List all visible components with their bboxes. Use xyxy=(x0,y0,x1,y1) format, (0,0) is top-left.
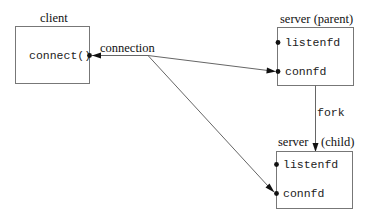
arrowhead-to-client-icon xyxy=(92,53,101,59)
fork-label: fork xyxy=(317,106,345,119)
fork-arrowhead-icon xyxy=(313,143,319,152)
child-connfd-label: connfd xyxy=(283,187,324,200)
connection-line-parent xyxy=(148,56,268,71)
parent-connfd-dot xyxy=(276,69,281,74)
client-connect-socket-dot xyxy=(87,53,92,58)
client-title: client xyxy=(40,11,68,25)
arrowhead-to-parent-icon xyxy=(266,67,276,73)
server-parent-title: server (parent) xyxy=(280,12,353,26)
server-child-title-right: (child) xyxy=(321,135,354,149)
connection-line-child xyxy=(148,56,268,187)
child-listenfd-label: listenfd xyxy=(283,158,338,171)
connection-edges xyxy=(92,53,276,193)
client-connect-label: connect() xyxy=(29,49,91,62)
parent-connfd-label: connfd xyxy=(285,65,326,78)
child-connfd-dot xyxy=(274,191,279,196)
diagram-canvas: client connect() connection server (pare… xyxy=(0,0,368,218)
parent-listenfd-label: listenfd xyxy=(285,36,340,49)
parent-listenfd-dot xyxy=(276,40,281,45)
child-listenfd-dot xyxy=(274,162,279,167)
server-parent-node: server (parent) listenfd connfd xyxy=(276,12,354,86)
client-node: client connect() xyxy=(16,11,92,84)
connection-label: connection xyxy=(100,41,156,55)
server-child-title-left: server xyxy=(278,135,309,149)
